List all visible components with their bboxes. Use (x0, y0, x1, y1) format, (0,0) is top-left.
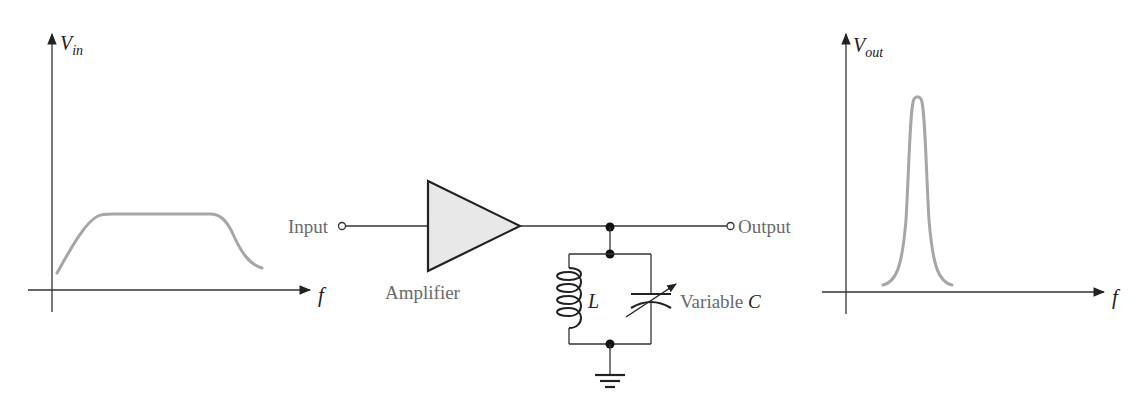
variable-capacitor-symbol (626, 254, 676, 344)
output-spectrum-graph: Vout f (822, 34, 1121, 314)
vin-axis-label: Vin (60, 32, 83, 58)
vout-axis-label: Vout (853, 34, 884, 60)
input-terminal (339, 223, 346, 230)
output-terminal (727, 223, 734, 230)
capacitor-label: Variable C (680, 291, 761, 312)
vin-curve (57, 214, 262, 273)
amplifier-symbol (428, 181, 520, 271)
output-label: Output (738, 216, 792, 237)
vout-f-label: f (1112, 285, 1121, 309)
inductor-label: L (587, 290, 599, 312)
ground-icon (595, 344, 625, 387)
circuit: Input Amplifier Output L Variable C (288, 181, 792, 387)
input-label: Input (288, 216, 329, 237)
input-spectrum-graph: Vin f (28, 32, 327, 312)
vout-curve (883, 97, 952, 285)
tuned-amplifier-diagram: Vin f Input Amplifier Output L (0, 0, 1146, 409)
amplifier-label: Amplifier (385, 282, 461, 303)
inductor-symbol (557, 254, 581, 344)
vin-f-label: f (318, 283, 327, 307)
